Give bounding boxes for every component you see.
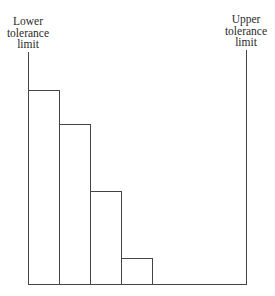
histogram-bar [28, 90, 60, 284]
histogram-bar [121, 258, 153, 284]
lower-label-line-1: Lower [0, 16, 68, 28]
histogram-bar [90, 191, 122, 284]
histogram-bar [59, 124, 91, 284]
lower-label-line-3: limit [0, 39, 68, 51]
baseline [28, 284, 247, 285]
lower-tolerance-label: Lower tolerance limit [0, 16, 68, 51]
upper-label-line-3: limit [206, 37, 275, 49]
upper-tolerance-label: Upper tolerance limit [206, 14, 275, 49]
upper-tolerance-line [246, 50, 247, 284]
upper-label-line-1: Upper [206, 14, 275, 26]
